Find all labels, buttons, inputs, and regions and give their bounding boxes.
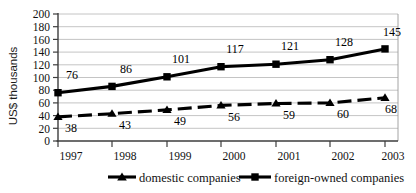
x-tick-label-1998: 1998 [114,150,137,162]
y-tick-label: 80 [39,84,51,96]
x-tick-label-2002: 2002 [332,150,355,162]
y-tick-label: 40 [39,110,51,122]
data-label-foreign-1999: 101 [172,52,190,66]
chart-container: US$ thousands [0,0,416,193]
x-tick-label-1997: 1997 [60,150,83,162]
data-label-domestic-1999: 49 [174,114,186,128]
data-label-domestic-2000: 56 [228,110,240,124]
x-tick-label-2000: 2000 [223,150,246,162]
data-label-domestic-1998: 43 [119,118,131,132]
data-label-domestic-2003: 68 [385,102,397,116]
data-label-foreign-2002: 128 [335,35,353,49]
data-label-foreign-2000: 117 [226,42,244,56]
data-label-foreign-1998: 86 [120,62,132,76]
y-tick-label: 0 [44,135,50,147]
data-label-foreign-1997: 76 [66,68,78,82]
x-tick-label-2003: 2003 [382,150,405,162]
y-tick-label: 100 [33,72,51,84]
y-tick-label: 120 [33,59,51,71]
data-label-foreign-2001: 121 [281,39,299,53]
data-label-domestic-2002: 60 [337,107,349,121]
y-tick-label: 160 [33,34,51,46]
data-label-foreign-2003: 145 [383,25,401,39]
y-tick-label: 60 [39,97,51,109]
legend-label-domestic: domestic companies [139,171,241,185]
y-axis-ticks [53,14,58,141]
square-marker-icon [251,173,258,180]
y-tick-label: 20 [39,123,51,135]
legend-label-foreign: foreign-owned companies [274,171,404,185]
y-axis-tick-labels: 200 180 160 140 120 100 80 60 40 20 0 [33,8,51,147]
x-axis-tick-labels: 1997 1998 1999 2000 2001 2002 2003 [60,150,405,162]
data-label-domestic-1997: 38 [65,121,77,135]
y-tick-label: 140 [33,46,51,58]
legend-item-foreign-owned-companies[interactable]: foreign-owned companies [239,171,404,185]
chart-legend: domestic companies foreign-owned compani… [108,171,404,185]
x-tick-label-2001: 2001 [278,150,301,162]
line-chart: 200 180 160 140 120 100 80 60 40 20 0 19… [0,0,416,193]
y-tick-label: 180 [33,21,51,33]
y-tick-label: 200 [33,8,51,20]
data-label-domestic-2001: 59 [283,108,295,122]
x-axis-ticks [58,141,385,147]
legend-item-domestic-companies[interactable]: domestic companies [108,171,241,185]
x-tick-label-1999: 1999 [169,150,192,162]
